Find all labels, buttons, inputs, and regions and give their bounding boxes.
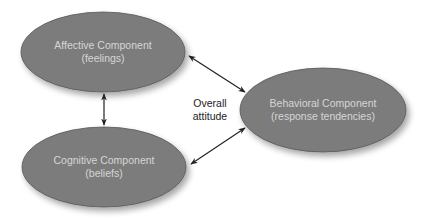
overall-attitude-line1: Overall <box>185 97 235 110</box>
affective-behavioral-arrow <box>189 56 245 92</box>
cognitive-component-node <box>22 127 186 207</box>
overall-attitude-line2: attitude <box>185 110 235 123</box>
affective-component-node <box>21 12 185 92</box>
behavioral-component-node <box>240 68 406 152</box>
overall-attitude-label: Overall attitude <box>185 97 235 123</box>
cognitive-behavioral-arrow <box>191 128 245 164</box>
